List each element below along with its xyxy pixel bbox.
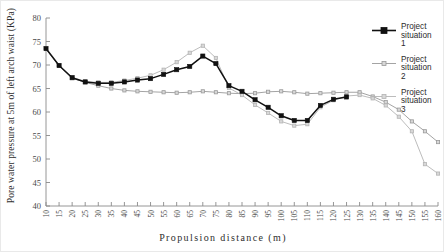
x-axis-label: Propulsion distance (m) <box>1 232 444 243</box>
y-tick-label: 70 <box>19 60 41 70</box>
x-tick-label: 115 <box>316 210 325 221</box>
x-tick-label: 125 <box>343 210 352 221</box>
x-tick-label: 25 <box>81 210 90 218</box>
y-tick-label: 40 <box>19 201 41 211</box>
x-tick-label: 145 <box>395 210 404 221</box>
x-tick-label: 90 <box>251 210 260 218</box>
x-tick-label: 80 <box>225 210 234 218</box>
legend-marker-icon <box>371 56 397 69</box>
legend-label: Projectsituation2 <box>401 56 432 82</box>
legend-item[interactable]: Projectsituation3 <box>371 89 443 115</box>
x-tick-label: 30 <box>94 210 103 218</box>
legend-label: Projectsituation3 <box>401 89 432 115</box>
x-tick-label: 45 <box>133 210 142 218</box>
x-tick-label: 55 <box>160 210 169 218</box>
y-tick-label: 50 <box>19 154 41 164</box>
x-tick-label: 120 <box>329 210 338 221</box>
legend-item[interactable]: Projectsituation2 <box>371 56 443 82</box>
legend-label-line3: 2 <box>401 73 432 82</box>
legend-marker-icon <box>371 23 397 36</box>
x-tick-label: 60 <box>173 210 182 218</box>
x-tick-label: 50 <box>147 210 156 218</box>
legend-label: Projectsituation1 <box>401 23 432 49</box>
x-tick-label: 150 <box>408 210 417 221</box>
legend-marker-icon <box>371 89 397 102</box>
legend-label-line3: 1 <box>401 40 432 49</box>
x-tick-label: 155 <box>421 210 430 221</box>
x-tick-label: 15 <box>55 210 64 218</box>
x-tick-label: 160 <box>434 210 443 221</box>
legend-label-line3: 3 <box>401 106 432 115</box>
x-tick-label: 105 <box>290 210 299 221</box>
x-tick-label: 140 <box>382 210 391 221</box>
x-tick-label: 65 <box>186 210 195 218</box>
y-tick-label: 80 <box>19 13 41 23</box>
x-tick-label: 85 <box>238 210 247 218</box>
y-tick-label: 55 <box>19 131 41 141</box>
x-tick-label: 75 <box>212 210 221 218</box>
x-tick-label: 20 <box>68 210 77 218</box>
x-tick-label: 130 <box>356 210 365 221</box>
x-tick-label: 10 <box>42 210 51 218</box>
y-tick-label: 75 <box>19 37 41 47</box>
x-tick-label: 95 <box>264 210 273 218</box>
x-tick-label: 110 <box>303 210 312 221</box>
y-tick-label: 65 <box>19 84 41 94</box>
chart-legend: Projectsituation1Projectsituation2Projec… <box>371 23 443 121</box>
x-tick-label: 40 <box>120 210 129 218</box>
legend-item[interactable]: Projectsituation1 <box>371 23 443 49</box>
x-tick-label: 70 <box>199 210 208 218</box>
x-tick-label: 135 <box>369 210 378 221</box>
y-tick-label: 60 <box>19 107 41 117</box>
chart-figure: Pore water pressure at 5m of left arch w… <box>0 0 444 252</box>
x-tick-label: 35 <box>107 210 116 218</box>
x-tick-label: 100 <box>277 210 286 221</box>
y-tick-label: 45 <box>19 178 41 188</box>
